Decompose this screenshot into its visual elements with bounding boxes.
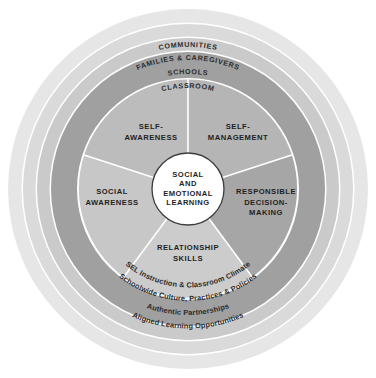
sel-framework-wheel: SOCIAL AND EMOTIONAL LEARNING SELF- AWAR… (0, 0, 376, 378)
label-relationship-skills-line-1: RELATIONSHIP (157, 243, 219, 252)
core-line-2: AND (179, 179, 197, 188)
label-responsible-decision-making-line-3: MAKING (249, 208, 283, 217)
label-self-awareness-line-2: AWARENESS (124, 133, 177, 142)
label-self-awareness-line-1: SELF- (139, 122, 163, 131)
label-self-management-line-1: SELF- (226, 122, 250, 131)
label-relationship-skills-line-2: SKILLS (173, 254, 203, 263)
core-line-3: EMOTIONAL (163, 189, 213, 198)
label-social-awareness-line-2: AWARENESS (85, 198, 138, 207)
label-self-management-line-2: MANAGEMENT (208, 133, 268, 142)
label-responsible-decision-making-line-2: DECISION- (244, 198, 288, 207)
core-line-4: LEARNING (166, 198, 209, 207)
core-line-1: SOCIAL (172, 170, 203, 179)
label-responsible-decision-making-line-1: RESPONSIBLE (236, 187, 296, 196)
label-social-awareness-line-1: SOCIAL (96, 187, 128, 196)
